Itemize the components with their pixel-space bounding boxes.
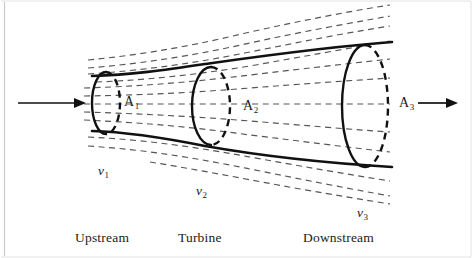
velocity-label-v2-symbol: v <box>196 183 202 198</box>
velocity-label-v2-subscript: 2 <box>203 190 208 200</box>
area-label-a3-subscript: 3 <box>410 102 415 112</box>
velocity-label-v3-symbol: v <box>357 205 363 220</box>
velocity-label-v3: v3 <box>357 206 368 220</box>
upstream-disk <box>92 72 120 134</box>
velocity-label-v3-subscript: 3 <box>364 212 369 222</box>
outlet-flow-arrow <box>418 98 458 108</box>
area-label-a2-symbol: A <box>243 98 253 113</box>
area-label-a1-subscript: 1 <box>135 101 140 111</box>
downstream-disk <box>342 45 388 167</box>
streamlines-below-tube <box>88 137 390 204</box>
area-label-a3-symbol: A <box>399 95 409 110</box>
area-label-a1-symbol: A <box>124 94 134 109</box>
inlet-flow-arrow <box>18 98 86 108</box>
velocity-label-v1: v1 <box>98 164 109 178</box>
scan-border-artifact <box>1 1 471 257</box>
stream-tube-drawing <box>0 0 472 258</box>
turbine-disk <box>192 67 230 145</box>
area-label-a3: A3 <box>399 96 414 110</box>
region-label-upstream: Upstream <box>75 231 129 245</box>
velocity-label-v2: v2 <box>196 184 207 198</box>
tube-edge-bottom <box>92 131 392 167</box>
area-label-a2-subscript: 2 <box>254 105 259 115</box>
velocity-label-v1-symbol: v <box>98 163 104 178</box>
streamlines-above-tube <box>88 5 390 82</box>
region-label-turbine: Turbine <box>178 231 222 245</box>
area-label-a1: A1 <box>124 95 139 109</box>
region-label-downstream: Downstream <box>303 231 374 245</box>
velocity-label-v1-subscript: 1 <box>105 170 110 180</box>
area-label-a2: A2 <box>243 99 258 113</box>
stream-tube-figure: A1 A2 A3 v1 v2 v3 Upstream Turbine Downs… <box>0 0 472 258</box>
